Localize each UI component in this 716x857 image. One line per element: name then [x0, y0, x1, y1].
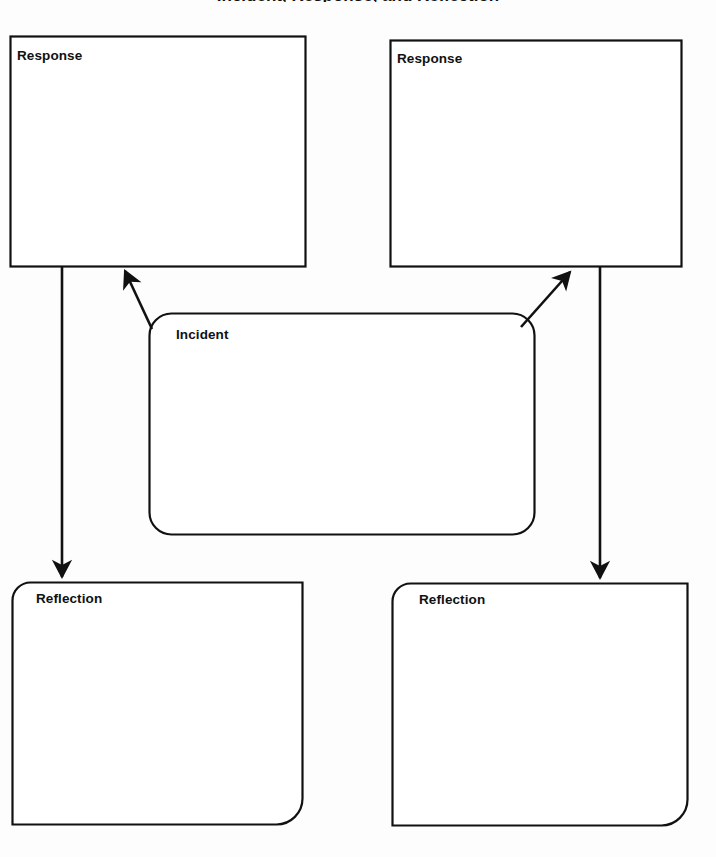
reflection-left-label: Reflection	[36, 592, 102, 606]
reflection-right-box[interactable]	[393, 584, 688, 826]
response-left-label: Response	[17, 49, 82, 63]
connector-incident-to-response-right	[521, 272, 570, 327]
worksheet-page: Incident, Response, and Reflection Respo…	[0, 0, 716, 857]
response-left-box[interactable]	[11, 37, 306, 267]
response-right-label: Response	[397, 52, 462, 66]
response-right-box[interactable]	[391, 41, 682, 267]
incident-box[interactable]	[150, 314, 535, 535]
incident-label: Incident	[176, 328, 229, 342]
reflection-right-label: Reflection	[419, 593, 485, 607]
diagram-canvas	[0, 0, 716, 857]
reflection-left-box[interactable]	[13, 583, 303, 825]
connector-incident-to-response-left	[125, 271, 152, 329]
